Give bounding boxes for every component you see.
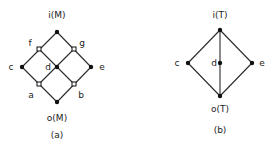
- node-bottom-a: [55, 100, 59, 104]
- label-d-b: d: [211, 58, 217, 68]
- label-e-b: e: [259, 58, 265, 68]
- node-a: [37, 82, 41, 86]
- node-c-a: [20, 65, 24, 69]
- node-c-b: [186, 61, 190, 65]
- label-c-b: c: [175, 58, 180, 68]
- top-label-b: i(T): [212, 10, 227, 20]
- label-a: a: [28, 90, 34, 100]
- bottom-label-a: o(M): [47, 113, 67, 123]
- diagram-a: i(M) f g c d e a b o(M) (a): [9, 10, 106, 140]
- top-label-a: i(M): [48, 10, 65, 20]
- node-top-b: [218, 28, 222, 32]
- caption-b: (b): [214, 125, 227, 135]
- diagram-b: i(T) c d e o(T) (b): [175, 10, 266, 135]
- node-e-b: [250, 61, 254, 65]
- node-f: [37, 47, 41, 51]
- label-b: b: [78, 90, 84, 100]
- label-f: f: [28, 38, 32, 48]
- node-g: [72, 47, 76, 51]
- lattice-diagrams: i(M) f g c d e a b o(M) (a) i(T) c d e o…: [0, 0, 269, 144]
- label-d-a: d: [45, 62, 51, 72]
- node-b: [72, 82, 76, 86]
- label-g: g: [79, 38, 85, 48]
- node-d-a: [55, 65, 59, 69]
- bottom-label-b: o(T): [211, 104, 229, 114]
- node-bottom-b: [218, 94, 222, 98]
- node-d-b: [218, 61, 222, 65]
- label-c-a: c: [9, 62, 14, 72]
- caption-a: (a): [51, 130, 64, 140]
- node-e-a: [89, 65, 93, 69]
- node-top-a: [55, 30, 59, 34]
- label-e-a: e: [99, 62, 105, 72]
